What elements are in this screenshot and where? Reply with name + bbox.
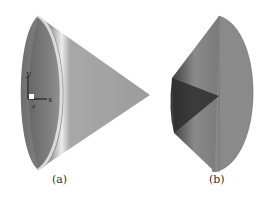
caption-b: (b) <box>209 173 225 186</box>
axis-y-label: y <box>25 69 31 78</box>
panel-b-mesh-cone <box>170 16 253 172</box>
axis-x-label: x <box>48 95 53 104</box>
figure-canvas: y x z <box>0 0 276 198</box>
caption-a: (a) <box>52 173 67 186</box>
panel-a-cone: y x z <box>21 16 150 170</box>
